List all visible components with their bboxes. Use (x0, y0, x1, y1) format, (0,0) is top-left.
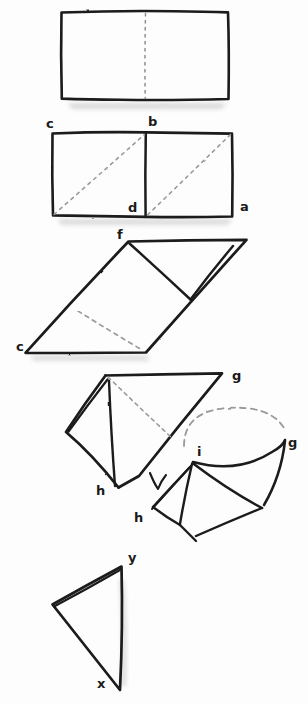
label-i-step5: i (197, 444, 201, 459)
label-b-step2: b (148, 114, 157, 129)
diagram-canvas: c b d a f c g h (0, 0, 308, 704)
label-c-step2: c (46, 116, 54, 131)
label-c-step3: c (16, 339, 24, 354)
step-2-shadow (58, 219, 232, 225)
label-g-step5: g (288, 435, 297, 450)
label-h-step4: h (96, 483, 105, 498)
label-f-step3: f (117, 227, 123, 242)
origami-sequence-svg: c b d a f c g h (0, 0, 308, 704)
label-d-step2: d (128, 200, 137, 215)
label-g-step4: g (232, 368, 241, 383)
step-3-shadow (30, 355, 150, 361)
label-x-step6: x (97, 676, 106, 691)
label-h-step5: h (134, 510, 143, 525)
label-y-step6: y (128, 550, 137, 565)
label-a-step2: a (240, 199, 249, 214)
step-1-shadow (68, 103, 226, 109)
